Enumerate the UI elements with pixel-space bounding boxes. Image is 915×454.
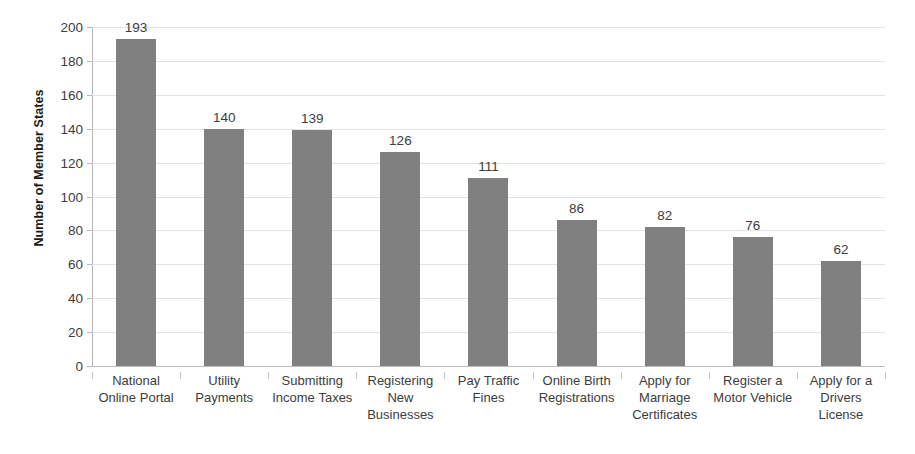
x-label-line: Registrations xyxy=(539,390,615,405)
x-axis-label: NationalOnline Portal xyxy=(92,372,180,406)
x-label-line: Income Taxes xyxy=(272,390,352,405)
x-tick-mark xyxy=(885,372,886,379)
y-tick-label: 100 xyxy=(60,189,83,204)
plot-area: 020406080100120140160180200 193140139126… xyxy=(92,27,885,366)
bar-chart: Number of Member States 0204060801001201… xyxy=(0,0,915,454)
x-label-line: Fines xyxy=(473,390,505,405)
x-tick-mark xyxy=(444,372,445,379)
y-tick-label: 60 xyxy=(68,257,83,272)
bar[interactable] xyxy=(733,237,773,366)
x-label-line: Online Portal xyxy=(98,390,173,405)
bar[interactable] xyxy=(116,39,156,366)
x-tick-mark xyxy=(92,372,93,379)
bar[interactable] xyxy=(204,129,244,366)
x-label-line: Apply for xyxy=(639,373,691,388)
bar-group: 139 xyxy=(268,27,356,366)
bar-value-label: 140 xyxy=(213,110,236,125)
y-tick-label: 160 xyxy=(60,87,83,102)
bar-value-label: 111 xyxy=(478,159,499,174)
x-axis-label: Register aMotor Vehicle xyxy=(709,372,797,406)
x-tick-mark xyxy=(709,372,710,379)
x-label-line: License xyxy=(819,407,864,422)
x-label-line: Certificates xyxy=(632,407,697,422)
x-label-line: Marriage xyxy=(639,390,690,405)
x-label-line: Motor Vehicle xyxy=(713,390,792,405)
bar-group: 76 xyxy=(709,27,797,366)
bar-group: 86 xyxy=(533,27,621,366)
y-tick-label: 20 xyxy=(68,325,83,340)
y-tick-label: 0 xyxy=(75,359,83,374)
x-label-line: Utility xyxy=(208,373,240,388)
bar-value-label: 139 xyxy=(301,111,324,126)
bar[interactable] xyxy=(557,220,597,366)
x-axis-label: UtilityPayments xyxy=(180,372,268,406)
bar-group: 62 xyxy=(797,27,885,366)
bar-group: 82 xyxy=(621,27,709,366)
bar-value-label: 82 xyxy=(657,208,672,223)
bars-layer: 19314013912611186827662 xyxy=(92,27,885,366)
y-tick-label: 40 xyxy=(68,291,83,306)
y-axis-title: Number of Member States xyxy=(26,0,52,338)
bar[interactable] xyxy=(468,178,508,366)
y-tick-label: 120 xyxy=(60,155,83,170)
x-label-line: Register a xyxy=(723,373,782,388)
bar[interactable] xyxy=(645,227,685,366)
bar-value-label: 86 xyxy=(569,201,584,216)
x-label-line: Registering xyxy=(368,373,434,388)
x-tick-mark xyxy=(180,372,181,379)
bar-group: 111 xyxy=(444,27,532,366)
x-label-line: Apply for a xyxy=(810,373,873,388)
bar-value-label: 62 xyxy=(833,242,848,257)
x-tick-mark xyxy=(797,372,798,379)
x-axis-label: Pay TrafficFines xyxy=(444,372,532,406)
x-label-line: Submitting xyxy=(282,373,343,388)
x-label-line: New xyxy=(387,390,413,405)
bar-group: 126 xyxy=(356,27,444,366)
bar-value-label: 76 xyxy=(745,218,760,233)
bar[interactable] xyxy=(821,261,861,366)
x-axis-label: SubmittingIncome Taxes xyxy=(268,372,356,406)
x-tick-mark xyxy=(356,372,357,379)
x-axis-label: Apply for aDriversLicense xyxy=(797,372,885,423)
x-axis-label: Online BirthRegistrations xyxy=(533,372,621,406)
x-tick-mark xyxy=(268,372,269,379)
bar-value-label: 126 xyxy=(389,133,412,148)
x-label-line: National xyxy=(112,373,160,388)
bar[interactable] xyxy=(292,130,332,366)
x-label-line: Online Birth xyxy=(543,373,611,388)
y-tick-label: 80 xyxy=(68,223,83,238)
bar-group: 193 xyxy=(92,27,180,366)
bar-value-label: 193 xyxy=(125,20,148,35)
x-label-line: Pay Traffic xyxy=(458,373,519,388)
x-label-line: Businesses xyxy=(367,407,433,422)
bar-group: 140 xyxy=(180,27,268,366)
x-label-line: Payments xyxy=(195,390,253,405)
gridline xyxy=(92,366,885,367)
x-tick-mark xyxy=(621,372,622,379)
y-tick-mark xyxy=(87,366,92,367)
y-tick-label: 140 xyxy=(60,121,83,136)
x-label-line: Drivers xyxy=(820,390,861,405)
x-axis-labels: NationalOnline PortalUtilityPaymentsSubm… xyxy=(92,372,885,454)
x-axis-label: Apply forMarriageCertificates xyxy=(621,372,709,423)
x-tick-mark xyxy=(533,372,534,379)
x-axis-label: RegisteringNewBusinesses xyxy=(356,372,444,423)
bar[interactable] xyxy=(380,152,420,366)
y-tick-label: 180 xyxy=(60,53,83,68)
y-tick-label: 200 xyxy=(60,20,83,35)
